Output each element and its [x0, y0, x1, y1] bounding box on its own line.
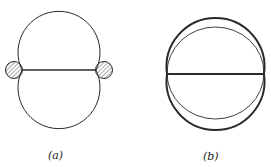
figure-b-label: (b): [203, 150, 219, 163]
upper-thick-arc: [167, 18, 265, 74]
figure-b: [167, 18, 265, 130]
hatched-blob-left: [6, 62, 23, 79]
figure-a: [6, 11, 113, 128]
lower-thick-arc: [167, 74, 265, 130]
diagram-canvas: [0, 0, 271, 167]
figure-a-label: (a): [48, 149, 63, 162]
hatched-blob-right: [96, 62, 113, 79]
lower-arc: [18, 70, 100, 129]
upper-arc: [18, 11, 100, 70]
